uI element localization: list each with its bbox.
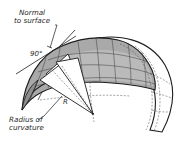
normal-leader: [50, 25, 57, 48]
radius-leader: [44, 96, 62, 116]
radius-symbol-label: R: [63, 98, 68, 106]
normal-to-surface-label: Normal to surface: [14, 9, 50, 25]
center-point: [92, 113, 94, 115]
radius-of-curvature-label: Radius of curvature: [9, 116, 44, 132]
spherical-shell-diagram: Normal to surface 90° R Radius of curvat…: [0, 0, 181, 145]
angle-label: 90°: [30, 50, 42, 58]
radius-label-line2: curvature: [9, 124, 44, 132]
normal-label-line2: to surface: [14, 17, 50, 25]
